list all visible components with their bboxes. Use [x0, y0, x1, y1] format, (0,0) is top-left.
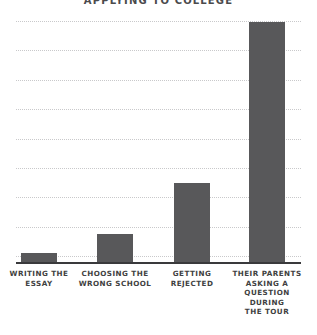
- x-axis-labels: WRITING THE ESSAYCHOOSING THE WRONG SCHO…: [0, 269, 317, 329]
- bar-chart: APPLYING TO COLLEGE WRITING THE ESSAYCHO…: [0, 0, 317, 335]
- chart-title: APPLYING TO COLLEGE: [0, 0, 317, 7]
- x-axis-label: CHOOSING THE WRONG SCHOOL: [77, 269, 153, 288]
- plot-area: [16, 18, 301, 263]
- x-axis-label: GETTING REJECTED: [154, 269, 230, 288]
- bar: [249, 22, 285, 263]
- bar: [97, 234, 133, 263]
- x-axis-label: WRITING THE ESSAY: [1, 269, 77, 288]
- bar: [174, 183, 210, 263]
- x-axis-label: THEIR PARENTS ASKING A QUESTION DURING T…: [229, 269, 305, 317]
- x-axis-line: [16, 262, 301, 264]
- bars-layer: [16, 18, 301, 263]
